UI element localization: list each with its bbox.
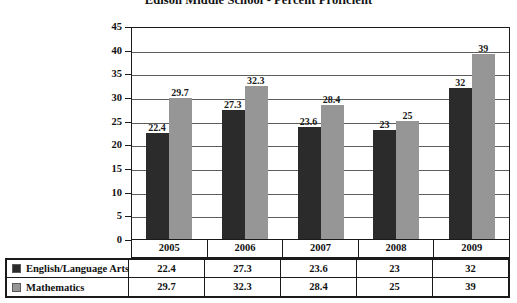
legend-label-cell: English/Language Arts	[7, 260, 129, 277]
bar-value-label: 29.7	[160, 88, 200, 98]
table-value-cell: 29.7	[129, 278, 205, 296]
table-value-cell: 23.6	[281, 260, 357, 277]
y-axis-tick-label: 10	[96, 188, 122, 199]
bar	[321, 105, 344, 239]
bar	[245, 86, 268, 239]
x-axis-year-row: 20052006200720082009	[131, 240, 510, 258]
table-value-cell: 28.4	[281, 278, 357, 296]
y-axis-tick-label: 40	[96, 46, 122, 57]
bar-value-label: 28.4	[312, 95, 352, 105]
bar	[449, 88, 472, 239]
bar-value-label: 25	[387, 111, 427, 121]
x-axis-year-label: 2005	[132, 240, 208, 257]
table-row: English/Language Arts22.427.323.62332	[7, 260, 508, 278]
data-table: English/Language Arts22.427.323.62332Mat…	[5, 258, 510, 298]
x-axis-year-label: 2008	[359, 240, 435, 257]
y-axis-tick-label: 25	[96, 117, 122, 128]
legend-swatch-icon	[12, 264, 21, 273]
table-value-cell: 22.4	[129, 260, 205, 277]
plot-area: 22.429.727.332.323.628.423253239	[131, 27, 510, 240]
bar-group: 3239	[435, 28, 511, 239]
x-axis-year-label: 2007	[283, 240, 359, 257]
table-value-cell: 27.3	[205, 260, 281, 277]
y-axis-tick-label: 15	[96, 164, 122, 175]
table-value-cell: 32	[433, 260, 508, 277]
table-row: Mathematics29.732.328.42539	[7, 278, 508, 296]
y-axis-tick-label: 45	[96, 22, 122, 33]
legend-label-cell: Mathematics	[7, 278, 129, 296]
legend-series-name: English/Language Arts	[26, 263, 129, 274]
bar	[146, 133, 169, 239]
y-axis-tick-label: 5	[96, 211, 122, 222]
y-axis-tick-label: 30	[96, 93, 122, 104]
bar-group: 27.332.3	[208, 28, 284, 239]
bar-value-label: 39	[463, 44, 503, 54]
bar-value-label: 32.3	[236, 76, 276, 86]
y-axis-tick-label: 0	[96, 235, 122, 246]
table-value-cell: 23	[357, 260, 433, 277]
bar-group: 22.429.7	[132, 28, 208, 239]
x-axis-year-label: 2006	[208, 240, 284, 257]
y-axis-tick-label: 20	[96, 140, 122, 151]
table-value-cell: 25	[357, 278, 433, 296]
bar-group: 23.628.4	[284, 28, 360, 239]
table-value-cell: 32.3	[205, 278, 281, 296]
y-axis-tick-label: 35	[96, 69, 122, 80]
bar	[396, 121, 419, 239]
legend-swatch-icon	[12, 283, 21, 292]
bar-group: 2325	[359, 28, 435, 239]
legend-series-name: Mathematics	[26, 282, 84, 293]
x-axis-year-label: 2009	[434, 240, 509, 257]
chart-title: Edison Middle School - Percent Proficien…	[0, 0, 517, 8]
bar	[298, 127, 321, 239]
bar	[472, 54, 495, 239]
bar	[373, 130, 396, 239]
bar	[222, 110, 245, 239]
table-value-cell: 39	[433, 278, 508, 296]
bar	[169, 98, 192, 239]
